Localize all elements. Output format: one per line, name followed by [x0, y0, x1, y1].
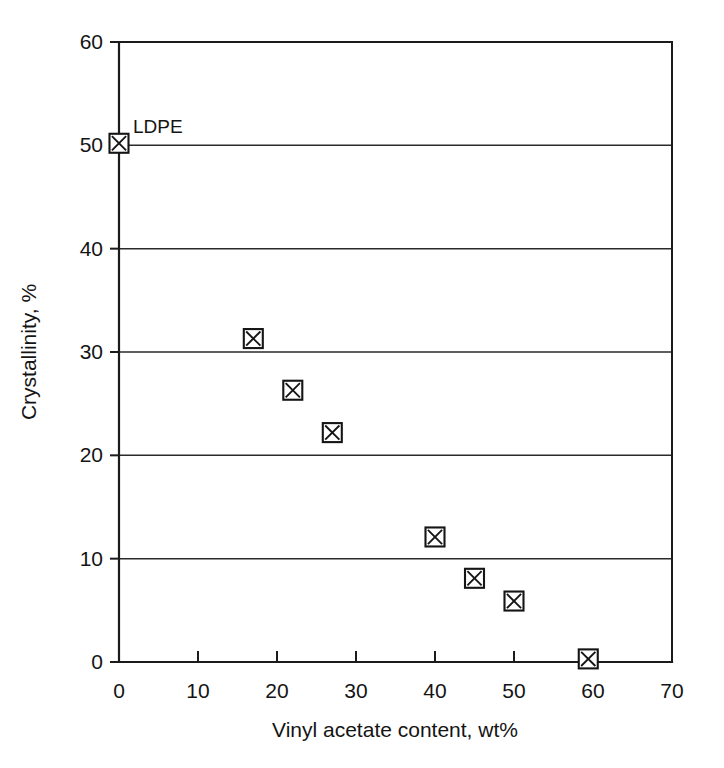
- y-axis-title: Crystallinity, %: [17, 284, 40, 420]
- x-tick-label-20: 20: [265, 679, 288, 702]
- data-point-marker: [323, 423, 342, 442]
- data-point-marker: [579, 649, 598, 668]
- y-tick-label-0: 0: [91, 650, 103, 673]
- x-tick-label-30: 30: [344, 679, 367, 702]
- y-axis-tick-labels: 0102030405060: [80, 30, 103, 673]
- y-tick-label-10: 10: [80, 547, 103, 570]
- x-axis-tick-labels: 010203040506070: [113, 679, 684, 702]
- annotation-ldpe: LDPE: [133, 116, 183, 137]
- x-tick-label-50: 50: [502, 679, 525, 702]
- data-point-marker: [244, 329, 263, 348]
- y-tick-label-50: 50: [80, 133, 103, 156]
- x-tick-label-70: 70: [660, 679, 683, 702]
- data-point-marker: [505, 592, 524, 611]
- data-point-marker: [110, 134, 129, 153]
- data-point-marker: [426, 527, 445, 546]
- y-tick-label-60: 60: [80, 30, 103, 53]
- x-tick-label-40: 40: [423, 679, 446, 702]
- data-point-marker: [283, 381, 302, 400]
- x-axis-title: Vinyl acetate content, wt%: [272, 718, 518, 741]
- x-tick-label-0: 0: [113, 679, 125, 702]
- y-tick-label-20: 20: [80, 443, 103, 466]
- data-point-marker: [465, 569, 484, 588]
- x-tick-label-60: 60: [581, 679, 604, 702]
- x-tick-label-10: 10: [186, 679, 209, 702]
- point-annotations: LDPE: [133, 116, 183, 137]
- y-tick-label-30: 30: [80, 340, 103, 363]
- scatter-plot: 0102030405060 010203040506070 LDPE Vinyl…: [0, 0, 724, 768]
- y-tick-label-40: 40: [80, 237, 103, 260]
- chart-figure: 0102030405060 010203040506070 LDPE Vinyl…: [0, 0, 724, 768]
